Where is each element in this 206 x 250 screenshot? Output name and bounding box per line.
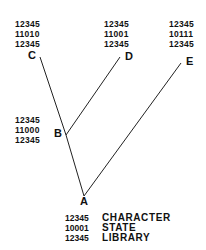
node-e-state: 10111 [169, 29, 194, 39]
node-e-data: 12345 10111 12345 [169, 19, 194, 49]
node-b-library: 12345 [15, 135, 40, 145]
node-a-library: 12345 [65, 233, 89, 243]
node-e-library: 12345 [169, 39, 194, 49]
node-d-library: 12345 [104, 39, 129, 49]
node-d-data: 12345 11001 12345 [104, 19, 129, 49]
node-d-state: 11001 [104, 29, 129, 39]
edge-a-e [84, 63, 181, 196]
node-c-character: 12345 [15, 19, 40, 29]
node-c-data: 12345 11010 12345 [15, 19, 40, 49]
node-b-data: 12345 11000 12345 [15, 115, 40, 145]
edge-b-c [40, 57, 66, 135]
node-e-character: 12345 [169, 19, 194, 29]
legend-library: LIBRARY [102, 233, 171, 243]
node-e-label: E [186, 55, 193, 67]
node-d-character: 12345 [104, 19, 129, 29]
node-d-label: D [125, 50, 133, 62]
node-b-state: 11000 [15, 125, 40, 135]
node-b-character: 12345 [15, 115, 40, 125]
node-a-label: A [80, 195, 88, 207]
legend: CHARACTER STATE LIBRARY [102, 213, 171, 243]
node-a-data: 12345 10001 12345 [65, 213, 89, 243]
node-b-label: B [54, 127, 62, 139]
node-c-label: C [28, 49, 36, 61]
edge-b-d [66, 57, 120, 135]
edge-a-b [66, 135, 84, 196]
node-a-character: 12345 [65, 213, 89, 223]
node-a-state: 10001 [65, 223, 89, 233]
node-c-state: 11010 [15, 29, 40, 39]
node-c-library: 12345 [15, 39, 40, 49]
